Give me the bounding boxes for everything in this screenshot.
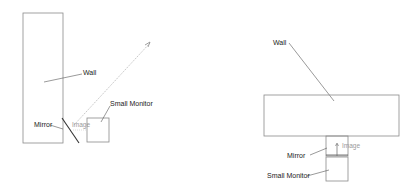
diagram-canvas: Wall Mirror Image Small Monitor Wall Ima… [0,0,418,186]
wall-rect [264,95,399,136]
side-view-diagram: Wall Mirror Image Small Monitor [23,13,153,143]
mirror-label: Mirror [287,152,306,159]
wall-leader-line [289,43,334,101]
small-monitor-label: Small Monitor [110,100,153,107]
image-label: Image [342,142,360,150]
wall-label: Wall [83,69,97,76]
mirror-leader-line [310,148,327,155]
mirror-label: Mirror [34,121,53,128]
sightline [74,43,150,125]
small-monitor-label: Small Monitor [267,172,310,179]
small-monitor-rect [87,118,109,142]
top-view-diagram: Wall Image Mirror Small Monitor [264,39,399,181]
small-monitor-rect [326,157,348,181]
wall-label: Wall [273,39,287,46]
image-label: Image [72,121,90,129]
